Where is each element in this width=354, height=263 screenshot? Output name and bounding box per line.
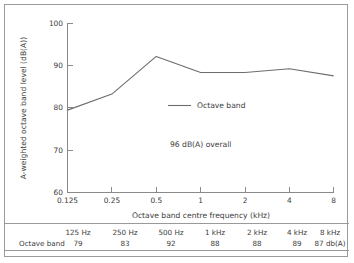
x-tick-label-1: 0.25 — [104, 196, 121, 205]
table-header-6: 8 kHz — [320, 228, 340, 237]
table-header-3: 1 kHz — [205, 228, 225, 237]
table-value-2: 92 — [166, 239, 175, 248]
table-value-5: 89 — [292, 239, 302, 248]
legend: Octave band — [168, 101, 246, 110]
table-header-4: 2 kHz — [247, 228, 267, 237]
table-value-6: 87 db(A) — [314, 239, 345, 248]
table-header-5: 4 kHz — [287, 228, 307, 237]
y-tick-label-70: 70 — [54, 146, 64, 155]
x-tick-label-3: 1 — [198, 196, 203, 205]
y-axis-title: A-weighted octave band level (dB(A)) — [19, 37, 28, 179]
table-value-1: 83 — [120, 239, 129, 248]
x-tick-label-2: 0.5 — [150, 196, 162, 205]
table-header-2: 500 Hz — [158, 228, 183, 237]
table-header-0: 125 Hz — [65, 228, 90, 237]
figure-frame: 100 90 80 70 60 0.125 0.25 0.5 1 2 4 8 A… — [4, 4, 348, 257]
x-tick-label-4: 2 — [243, 196, 248, 205]
y-tick-label-90: 90 — [54, 61, 64, 70]
table-header-1: 250 Hz — [112, 228, 137, 237]
table-value-row: Octave band 79 83 92 88 88 89 87 db(A) — [19, 239, 346, 248]
x-axis-ticks — [68, 187, 334, 193]
x-tick-label-0: 0.125 — [57, 196, 78, 205]
table-value-4: 88 — [252, 239, 262, 248]
y-tick-label-80: 80 — [54, 103, 64, 112]
overall-level-annotation: 96 dB(A) overall — [170, 140, 231, 149]
x-axis-title: Octave band centre frequency (kHz) — [132, 211, 270, 220]
y-tick-label-100: 100 — [49, 19, 63, 28]
chart-svg: 100 90 80 70 60 0.125 0.25 0.5 1 2 4 8 A… — [5, 5, 349, 258]
table-value-0: 79 — [73, 239, 83, 248]
x-tick-label-5: 4 — [287, 196, 292, 205]
x-tick-label-6: 8 — [331, 196, 336, 205]
chart-area: 100 90 80 70 60 0.125 0.25 0.5 1 2 4 8 A… — [5, 5, 349, 258]
table-value-3: 88 — [210, 239, 220, 248]
legend-label: Octave band — [197, 101, 246, 110]
table-row-label: Octave band — [19, 239, 65, 248]
table-header-row: 125 Hz 250 Hz 500 Hz 1 kHz 2 kHz 4 kHz 8… — [65, 228, 340, 237]
